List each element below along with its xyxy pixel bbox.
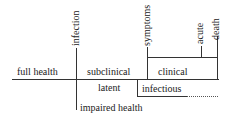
infection-label: infection bbox=[71, 10, 81, 46]
infectious-box-left-line bbox=[137, 79, 138, 97]
infectious-box-bottom-line bbox=[137, 96, 187, 97]
infectious-box-dotted-extension bbox=[187, 96, 218, 97]
infection-marker-line bbox=[76, 48, 77, 110]
impaired-health-label: impaired health bbox=[80, 103, 142, 113]
main-timeline-line bbox=[12, 79, 219, 80]
infectious-label: infectious bbox=[142, 84, 181, 94]
acute-label: acute bbox=[195, 23, 205, 44]
death-marker-line bbox=[217, 36, 218, 80]
disease-timeline-diagram: infection symptoms acute death full heal… bbox=[0, 0, 228, 120]
acute-marker-line bbox=[201, 46, 202, 58]
latent-label: latent bbox=[98, 83, 120, 93]
clinical-label: clinical bbox=[158, 67, 187, 77]
death-label: death bbox=[211, 18, 221, 40]
symptoms-marker-line bbox=[147, 47, 148, 80]
subclinical-label: subclinical bbox=[87, 67, 130, 77]
full-health-label: full health bbox=[17, 67, 58, 77]
symptoms-label: symptoms bbox=[142, 5, 152, 46]
clinical-box-top-line bbox=[147, 57, 218, 58]
